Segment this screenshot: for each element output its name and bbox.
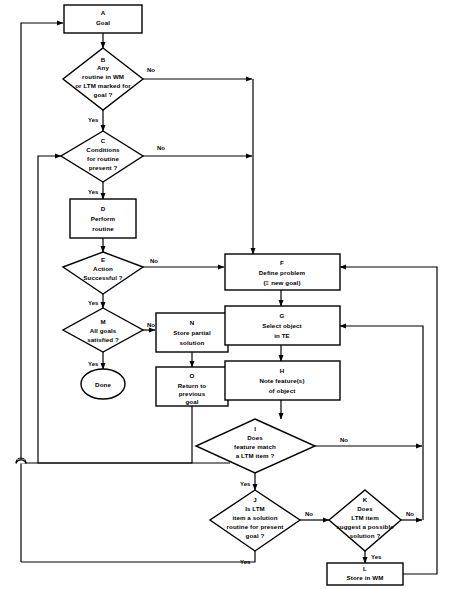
- node-k-line-1: LTM item: [351, 514, 379, 521]
- label-i-no: No: [340, 437, 348, 443]
- node-b-line-2: or LTM marked for: [75, 82, 131, 89]
- node-d-line-1: routine: [92, 225, 114, 232]
- node-k-line-3: solution ?: [350, 532, 381, 539]
- node-c-line-0: Conditions: [86, 146, 120, 153]
- node-g-line-0: Select object: [262, 322, 301, 329]
- node-h[interactable]: H Note feature(s) of object: [225, 361, 340, 400]
- node-f-line-1: (≡ new goal): [263, 279, 300, 286]
- label-j-no: No: [305, 511, 313, 517]
- node-j-line-1: item a solution: [232, 514, 277, 521]
- node-m-id: M: [100, 318, 105, 325]
- label-j-yes: Yes: [240, 559, 251, 565]
- node-n-line-1: solution: [180, 339, 205, 346]
- node-o[interactable]: O Return to previous goal: [156, 367, 228, 406]
- node-h-id: H: [280, 367, 285, 374]
- node-o-line-2: goal: [185, 398, 198, 405]
- label-m-yes: Yes: [88, 361, 99, 367]
- node-h-line-1: of object: [269, 387, 296, 394]
- label-i-yes: Yes: [240, 481, 251, 487]
- node-i[interactable]: I Does feature match a LTM item ?: [196, 419, 315, 473]
- node-l-line-0: Store in WM: [347, 574, 384, 581]
- node-a-id: A: [101, 9, 106, 16]
- label-c-no: No: [157, 145, 165, 151]
- node-b[interactable]: B Any routine in WM or LTM marked for go…: [63, 48, 143, 110]
- node-f-line-0: Define problem: [259, 269, 306, 276]
- node-d-line-0: Perform: [91, 215, 116, 222]
- node-l-id: L: [363, 565, 367, 572]
- flowchart-canvas: A Goal B Any routine in WM or LTM marked…: [0, 0, 451, 589]
- node-b-line-3: goal ?: [94, 91, 113, 98]
- node-m-line-0: All goals: [90, 327, 117, 334]
- node-j-line-3: goal ?: [246, 532, 265, 539]
- node-d-id: D: [101, 205, 106, 212]
- node-e-line-0: Action: [93, 265, 113, 272]
- node-e-line-1: Successful ?: [83, 274, 122, 281]
- node-m[interactable]: M All goals satisfied ?: [63, 308, 143, 352]
- node-c[interactable]: C Conditions for routine present ?: [61, 131, 143, 182]
- node-h-line-0: Note feature(s): [259, 377, 304, 384]
- node-c-line-1: for routine: [87, 155, 119, 162]
- node-c-line-2: present ?: [89, 164, 118, 171]
- node-o-id: O: [190, 372, 195, 379]
- node-i-id: I: [254, 425, 256, 432]
- node-k-line-2: suggest a possible: [336, 523, 394, 530]
- node-g-line-1: in TE: [274, 332, 290, 339]
- node-o-line-1: previous: [179, 390, 206, 397]
- label-b-yes: Yes: [88, 117, 99, 123]
- node-i-line-1: feature match: [234, 443, 276, 450]
- node-f-id: F: [280, 259, 284, 266]
- label-b-no: No: [147, 67, 155, 73]
- node-n[interactable]: N Store partial solution: [156, 313, 228, 352]
- node-e[interactable]: E Action Successful ?: [63, 252, 143, 294]
- node-g[interactable]: G Select object in TE: [225, 306, 340, 345]
- label-c-yes: Yes: [88, 189, 99, 195]
- node-f[interactable]: F Define problem (≡ new goal): [225, 254, 340, 290]
- label-k-no: No: [406, 511, 414, 517]
- node-l[interactable]: L Store in WM: [327, 563, 403, 585]
- node-b-line-0: Any: [97, 64, 109, 71]
- label-e-yes: Yes: [88, 300, 99, 306]
- node-a-line-0: Goal: [96, 19, 110, 26]
- flowchart-svg: A Goal B Any routine in WM or LTM marked…: [0, 0, 451, 589]
- node-k-line-0: Does: [357, 505, 373, 512]
- node-m-line-1: satisfied ?: [87, 336, 119, 343]
- label-e-no: No: [150, 258, 158, 264]
- node-g-id: G: [280, 312, 285, 319]
- node-k[interactable]: K Does LTM item suggest a possible solut…: [329, 490, 401, 551]
- node-a[interactable]: A Goal: [64, 5, 142, 33]
- node-n-id: N: [190, 319, 195, 326]
- node-j-line-2: routine for present: [227, 523, 284, 530]
- node-done-label: Done: [95, 381, 111, 388]
- node-c-id: C: [101, 137, 106, 144]
- node-d[interactable]: D Perform routine: [70, 199, 136, 238]
- node-j-id: J: [253, 496, 257, 503]
- node-b-id: B: [101, 56, 106, 63]
- node-e-id: E: [101, 256, 105, 263]
- node-n-line-0: Store partial: [173, 329, 211, 336]
- connectors: [16, 23, 437, 574]
- node-o-line-0: Return to: [178, 382, 207, 389]
- trunk-inner-to-g: [340, 326, 423, 520]
- node-k-id: K: [363, 496, 368, 503]
- node-i-line-2: a LTM item ?: [236, 452, 275, 459]
- label-k-yes: Yes: [371, 554, 382, 560]
- node-i-line-0: Does: [247, 434, 263, 441]
- node-b-line-1: routine in WM: [82, 73, 124, 80]
- node-j-line-0: Is LTM: [245, 505, 265, 512]
- label-m-no: No: [147, 322, 155, 328]
- node-j[interactable]: J Is LTM item a solution routine for pre…: [210, 490, 300, 551]
- node-done[interactable]: Done: [81, 369, 125, 399]
- edge-j-yes-to-a: [21, 551, 255, 562]
